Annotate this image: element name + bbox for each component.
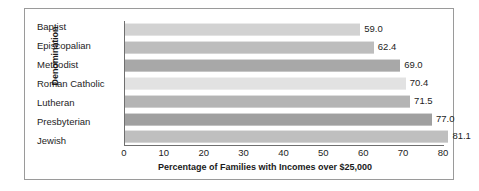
plot-area: 59.062.469.070.471.577.081.1 xyxy=(124,21,444,146)
bar-value-label: 69.0 xyxy=(404,58,423,71)
bar-presbyterian xyxy=(125,113,432,126)
x-axis-ticks: 01020304050607080 xyxy=(124,147,444,161)
category-label-presbyterian: Presbyterian xyxy=(37,116,121,127)
category-label-methodist: Methodist xyxy=(37,59,121,70)
x-tick-label: 30 xyxy=(238,147,249,158)
bar-baptist xyxy=(125,23,360,36)
x-tick-label: 20 xyxy=(198,147,209,158)
x-tick-label: 40 xyxy=(278,147,289,158)
x-tick-label: 10 xyxy=(159,147,170,158)
bar-value-label: 77.0 xyxy=(436,112,455,125)
x-axis-title: Percentage of Families with Incomes over… xyxy=(85,162,445,172)
x-tick-label: 80 xyxy=(438,147,449,158)
bar-row: 77.0 xyxy=(125,113,444,126)
category-label-episcopalian: Episcopalian xyxy=(37,40,121,51)
bar-value-label: 70.4 xyxy=(410,76,429,89)
bar-row: 59.0 xyxy=(125,23,444,36)
bar-lutheran xyxy=(125,95,410,108)
category-label-roman-catholic: Roman Catholic xyxy=(37,78,121,89)
bar-series: 59.062.469.070.471.577.081.1 xyxy=(125,21,444,146)
bar-row: 71.5 xyxy=(125,95,444,108)
x-tick-label: 70 xyxy=(398,147,409,158)
x-tick-label: 60 xyxy=(358,147,369,158)
bar-episcopalian xyxy=(125,41,374,54)
bar-value-label: 81.1 xyxy=(452,129,471,142)
bar-value-label: 59.0 xyxy=(364,22,383,35)
bar-value-label: 71.5 xyxy=(414,94,433,107)
category-label-jewish: Jewish xyxy=(37,135,121,146)
bar-methodist xyxy=(125,59,400,72)
category-label-lutheran: Lutheran xyxy=(37,97,121,108)
category-label-column: Baptist Episcopalian Methodist Roman Cat… xyxy=(37,21,121,146)
x-tick-label: 50 xyxy=(318,147,329,158)
bar-jewish xyxy=(125,130,448,143)
bar-roman-catholic xyxy=(125,77,406,90)
bar-value-label: 62.4 xyxy=(378,40,397,53)
x-tick-label: 0 xyxy=(121,147,126,158)
bar-row: 69.0 xyxy=(125,59,444,72)
bar-row: 81.1 xyxy=(125,130,444,143)
bar-row: 70.4 xyxy=(125,77,444,90)
bar-row: 62.4 xyxy=(125,41,444,54)
category-label-baptist: Baptist xyxy=(37,21,121,32)
chart-panel: Denomination Baptist Episcopalian Method… xyxy=(24,8,454,180)
chart-figure: Denomination Baptist Episcopalian Method… xyxy=(0,0,479,191)
